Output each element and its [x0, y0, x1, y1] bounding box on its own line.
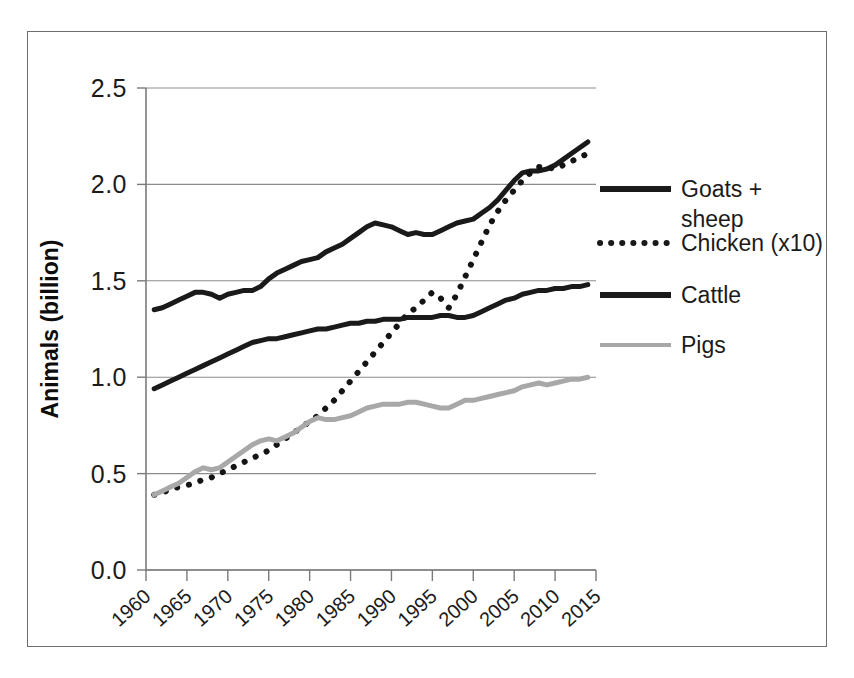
- y-tick-marks: [137, 88, 146, 570]
- x-tick-label: 2005: [475, 585, 523, 631]
- y-axis-title-text: Animals (billion): [37, 240, 63, 419]
- x-tick-label: 1985: [311, 585, 359, 631]
- series-line-goats-sheep: [154, 142, 588, 310]
- legend-label: Goats +: [681, 176, 762, 202]
- series-line-pigs: [154, 377, 588, 495]
- y-axis-title: Animals (billion): [37, 240, 63, 419]
- chart-legend: Goats +sheepChicken (x10)CattlePigs: [600, 176, 823, 358]
- x-tick-labels: 1960196519701975198019851990199520002005…: [107, 585, 605, 631]
- y-tick-label: 2.0: [91, 170, 127, 198]
- legend-label-line2: sheep: [681, 206, 744, 232]
- x-tick-label: 2000: [434, 585, 482, 631]
- x-tick-label: 1980: [271, 585, 319, 631]
- x-tick-label: 1960: [107, 585, 155, 631]
- line-chart-plot: 0.00.51.01.52.02.5 196019651970197519801…: [0, 0, 854, 678]
- y-tick-label: 0.5: [91, 460, 127, 488]
- x-tick-label: 1975: [230, 585, 278, 631]
- legend-label: Chicken (x10): [681, 230, 823, 256]
- x-tick-label: 1995: [393, 585, 441, 631]
- x-tick-label: 1965: [148, 585, 196, 631]
- legend-label: Pigs: [681, 332, 726, 358]
- y-tick-labels: 0.00.51.01.52.02.5: [91, 74, 127, 584]
- chart-figure: 0.00.51.01.52.02.5 196019651970197519801…: [0, 0, 854, 678]
- x-tick-label: 2010: [516, 585, 564, 631]
- axis-lines: [146, 88, 596, 570]
- y-tick-label: 0.0: [91, 556, 127, 584]
- legend-label: Cattle: [681, 282, 741, 308]
- y-tick-label: 1.0: [91, 363, 127, 391]
- x-tick-label: 2015: [557, 585, 605, 631]
- gridlines-group: [146, 88, 596, 570]
- data-series-group: [154, 142, 588, 495]
- x-tick-marks: [146, 570, 596, 581]
- y-tick-label: 1.5: [91, 267, 127, 295]
- series-line-chicken-x10: [154, 154, 588, 495]
- x-tick-label: 1970: [189, 585, 237, 631]
- y-tick-label: 2.5: [91, 74, 127, 102]
- x-tick-label: 1990: [352, 585, 400, 631]
